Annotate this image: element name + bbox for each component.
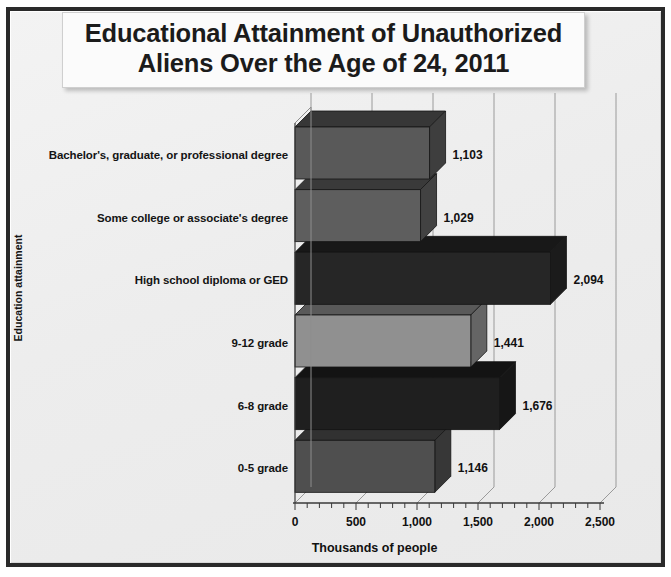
bar-0	[295, 111, 446, 179]
plot-svg	[0, 0, 671, 577]
gridline-2500	[600, 93, 616, 503]
bar-3	[295, 299, 487, 367]
category-label-4: 6-8 grade	[238, 400, 288, 412]
value-label-3: 1,441	[494, 336, 524, 350]
bar-2	[295, 236, 566, 304]
category-label-5: 0-5 grade	[238, 462, 288, 474]
y-axis-title: Education attainment	[12, 235, 24, 342]
value-label-2: 2,094	[573, 273, 603, 287]
value-label-5: 1,146	[458, 461, 488, 475]
value-label-1: 1,029	[444, 211, 474, 225]
x-tick-label-4: 2,000	[524, 515, 554, 529]
category-label-2: High school diploma or GED	[135, 274, 288, 286]
x-tick-label-1: 500	[346, 515, 366, 529]
value-label-4: 1,676	[522, 399, 552, 413]
x-axis-title: Thousands of people	[312, 541, 438, 555]
plot-area	[0, 0, 671, 577]
chart-screenshot: Educational Attainment of Unauthorized A…	[0, 0, 671, 577]
bar-4	[295, 362, 515, 430]
bar-5	[295, 424, 451, 492]
x-tick-label-5: 2,500	[585, 515, 615, 529]
x-tick-label-2: 1,000	[402, 515, 432, 529]
bar-1	[295, 174, 437, 242]
x-axis-title-wrap: Thousands of people	[0, 541, 671, 555]
x-tick-label-0: 0	[292, 515, 299, 529]
value-label-0: 1,103	[453, 148, 483, 162]
category-label-1: Some college or associate's degree	[97, 212, 288, 224]
category-label-0: Bachelor's, graduate, or professional de…	[49, 149, 288, 161]
x-tick-label-3: 1,500	[463, 515, 493, 529]
category-label-3: 9-12 grade	[231, 337, 288, 349]
